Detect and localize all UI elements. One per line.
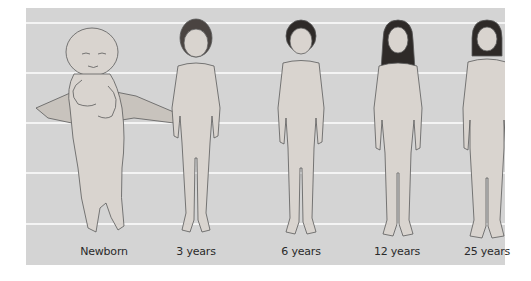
figures-drawing xyxy=(26,8,505,265)
label-newborn: Newborn xyxy=(64,245,144,258)
label-3-years: 3 years xyxy=(156,245,236,258)
label-6-years: 6 years xyxy=(261,245,341,258)
label-12-years: 12 years xyxy=(357,245,437,258)
illustration-panel: Newborn 3 years 6 years 12 years 25 year… xyxy=(26,8,505,265)
figure-6-years xyxy=(278,20,324,234)
figure-3-years xyxy=(172,19,220,232)
label-25-years: 25 years xyxy=(447,245,527,258)
figure-12-years xyxy=(374,20,422,236)
figure-newborn xyxy=(36,28,176,232)
figure-25-years xyxy=(463,20,505,238)
